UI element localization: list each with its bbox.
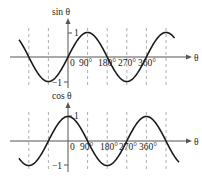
trig-graphs: sin θ 1 −1 θ 0 90° 180° 270° 360° cos θ …	[0, 0, 202, 181]
sin-x-tick-90: 90°	[79, 58, 93, 68]
sin-y-tick-1: 1	[74, 28, 79, 38]
cos-y-tick-minus-1: −1	[52, 161, 62, 171]
cos-y-label: cos θ	[52, 91, 72, 101]
cos-y-arrow-icon	[66, 102, 71, 108]
cos-x-label: θ	[194, 137, 199, 147]
sin-x-tick-0: 0	[70, 58, 75, 68]
cos-x-tick-270: 270°	[119, 142, 137, 152]
sin-graph: sin θ 1 −1 θ 0 90° 180° 270° 360°	[10, 7, 199, 88]
cos-x-arrow-icon	[186, 139, 192, 144]
sin-y-label: sin θ	[52, 7, 70, 17]
sin-x-tick-270: 270°	[118, 58, 136, 68]
cos-graph: cos θ 1 −1 θ 0 90° 180° 270° 360°	[10, 91, 199, 172]
cos-x-tick-0: 0	[70, 142, 75, 152]
sin-x-label: θ	[194, 53, 199, 63]
cos-x-tick-360: 360°	[139, 142, 157, 152]
sin-y-arrow-icon	[66, 18, 71, 24]
sin-x-arrow-icon	[186, 55, 192, 60]
cos-x-tick-90: 90°	[80, 142, 94, 152]
sin-y-tick-minus-1: −1	[52, 78, 62, 88]
sin-x-tick-360: 360°	[138, 58, 156, 68]
cos-x-tick-180: 180°	[100, 142, 118, 152]
cos-y-tick-1: 1	[74, 111, 79, 121]
sin-x-tick-180: 180°	[98, 58, 116, 68]
